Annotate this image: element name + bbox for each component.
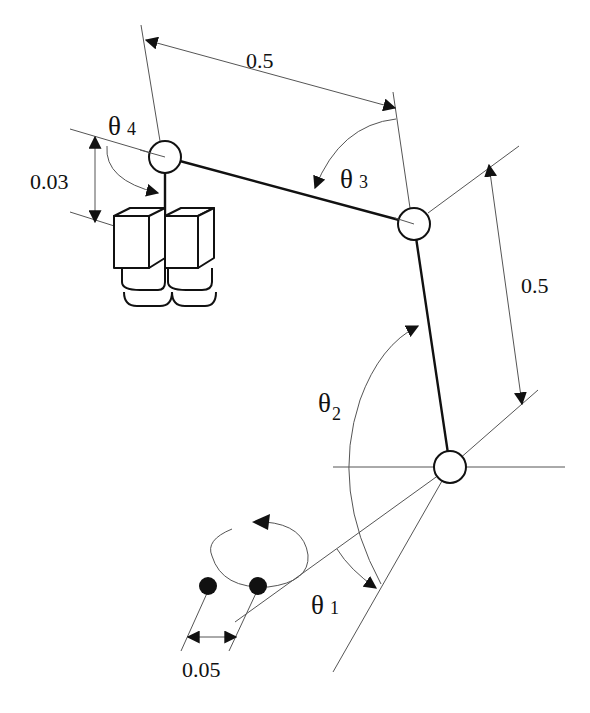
eye-separation-label: 0.05 bbox=[182, 657, 221, 682]
construction-lines bbox=[70, 25, 565, 672]
svg-text:θ3: θ3 bbox=[340, 164, 368, 194]
theta2-index: 2 bbox=[332, 404, 341, 424]
lower-link-length-label: 0.5 bbox=[521, 273, 549, 298]
camera-offset-label: 0.03 bbox=[30, 169, 69, 194]
dimension-lower-link: 0.5 bbox=[489, 165, 549, 404]
lower-link bbox=[414, 224, 450, 467]
angle-theta2: θ2 bbox=[318, 326, 418, 584]
theta1-symbol: θ bbox=[311, 590, 324, 620]
target-points bbox=[199, 577, 267, 595]
dimension-upper-link: 0.5 bbox=[146, 40, 395, 108]
theta1-ray bbox=[333, 467, 450, 672]
joint3-reference-line bbox=[141, 25, 160, 141]
joint2-reference-line bbox=[393, 92, 410, 208]
theta2-symbol: θ bbox=[318, 388, 331, 418]
theta1-index: 1 bbox=[330, 598, 339, 618]
dimension-eye-separation: 0.05 bbox=[181, 591, 257, 682]
target-line bbox=[235, 467, 450, 622]
svg-text:θ2: θ2 bbox=[318, 388, 341, 424]
links bbox=[165, 157, 450, 467]
theta4-index: 4 bbox=[127, 119, 136, 139]
joints bbox=[140, 141, 466, 483]
robot-arm-diagram: 0.5 0.5 0.03 0.05 θ1 θ2 θ3 θ4 bbox=[0, 0, 590, 713]
upper-link-length-label: 0.5 bbox=[246, 48, 274, 73]
dimension-camera-offset: 0.03 bbox=[30, 137, 95, 222]
camera-left bbox=[114, 208, 172, 306]
rotation-indicator bbox=[211, 514, 309, 587]
base-extension-line bbox=[450, 390, 538, 467]
theta3-symbol: θ bbox=[340, 164, 353, 194]
camera-right bbox=[165, 208, 216, 306]
theta3-index: 3 bbox=[359, 172, 368, 192]
angle-theta3: θ3 bbox=[315, 119, 396, 194]
theta4-symbol: θ bbox=[108, 111, 121, 141]
joint-base bbox=[434, 451, 466, 483]
rotation-arrow-icon bbox=[252, 514, 270, 530]
target-point-right bbox=[249, 577, 267, 595]
stereo-camera-head bbox=[114, 208, 216, 306]
target-point-left bbox=[199, 577, 217, 595]
joint2-extension-line bbox=[428, 146, 519, 213]
svg-text:θ1: θ1 bbox=[311, 590, 339, 620]
svg-text:θ4: θ4 bbox=[108, 111, 136, 141]
